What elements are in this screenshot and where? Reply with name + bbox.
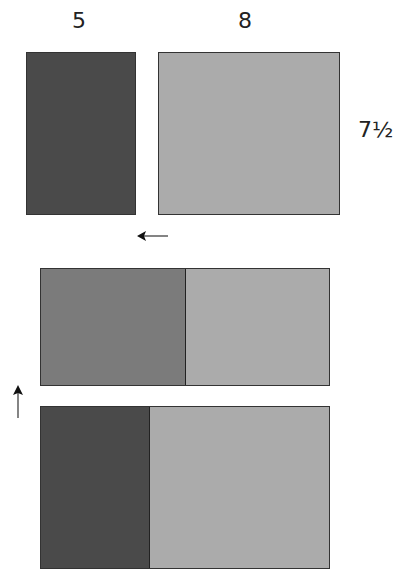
bottom-rectangle (40, 406, 330, 569)
label-width-5: 5 (72, 8, 86, 33)
middle-rectangle (40, 268, 330, 386)
middle-divider (185, 269, 186, 385)
bottom-divider (149, 407, 150, 568)
left-arrow-icon (136, 228, 170, 244)
label-height-7-5: 7½ (358, 117, 393, 142)
middle-left-part (41, 269, 185, 385)
middle-right-part (186, 269, 329, 385)
label-width-8: 8 (238, 8, 252, 33)
up-arrow-icon (10, 384, 26, 420)
top-left-rectangle (26, 52, 136, 215)
bottom-left-part (41, 407, 149, 568)
bottom-right-part (150, 407, 329, 568)
top-right-rectangle (158, 52, 340, 215)
